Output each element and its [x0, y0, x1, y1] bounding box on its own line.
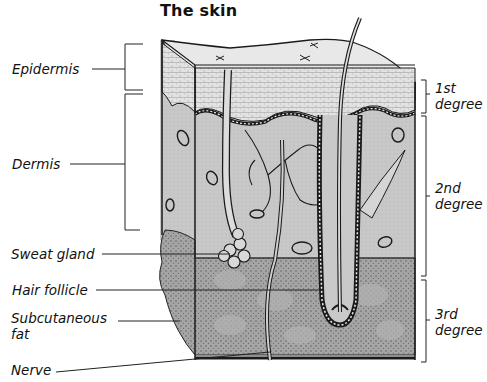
- label-hair-follicle: Hair follicle: [12, 282, 88, 298]
- label-nerve: Nerve: [11, 362, 51, 378]
- label-1st: 1st: [435, 80, 456, 96]
- label-subcutaneous: Subcutaneous: [11, 310, 107, 326]
- label-3rd-degree: degree: [435, 322, 483, 338]
- label-subcutaneous-fat: fat: [11, 326, 29, 342]
- label-2nd-degree: degree: [435, 196, 483, 212]
- right-brackets: [421, 80, 430, 362]
- label-2nd: 2nd: [435, 180, 461, 196]
- label-1st-degree: degree: [435, 96, 483, 112]
- label-epidermis: Epidermis: [12, 61, 79, 77]
- label-sweat-gland: Sweat gland: [11, 246, 95, 262]
- label-dermis: Dermis: [12, 156, 60, 172]
- label-3rd: 3rd: [435, 306, 458, 322]
